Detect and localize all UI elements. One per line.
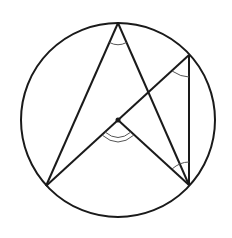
angle-mark-top xyxy=(110,43,127,45)
angle-mark-center-outer xyxy=(102,135,134,142)
chord-top-bottomright xyxy=(118,23,189,185)
geometry-diagram xyxy=(0,0,232,238)
radius-center-bottomright xyxy=(118,120,189,185)
angle-mark-right-upper xyxy=(172,71,189,77)
center-point xyxy=(116,118,121,123)
chord-top-bottomleft xyxy=(46,23,118,186)
angle-mark-center-inner xyxy=(105,132,131,138)
